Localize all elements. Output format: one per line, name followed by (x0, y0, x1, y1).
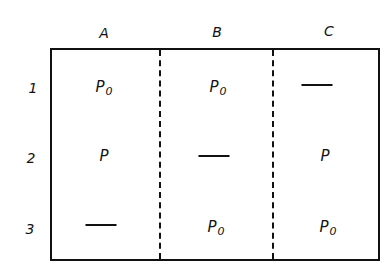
cell-b2-dash (199, 155, 230, 157)
column-divider-ab (159, 50, 161, 259)
column-divider-bc (272, 50, 274, 259)
cell-b1: P0 (209, 79, 226, 100)
row-label-2: 2 (27, 150, 36, 166)
row-label-1: 1 (29, 80, 38, 96)
cell-c1-dash (302, 84, 333, 86)
column-header-a: A (99, 25, 109, 41)
cell-a3-dash (86, 224, 117, 226)
cell-b3: P0 (207, 219, 224, 240)
cell-c3: P0 (319, 219, 336, 240)
column-header-c: C (324, 23, 334, 39)
cell-a1: P0 (95, 79, 112, 100)
column-header-b: B (212, 24, 222, 40)
row-label-3: 3 (26, 221, 35, 237)
cell-a2: P (99, 148, 108, 164)
cell-c2: P (320, 148, 329, 164)
